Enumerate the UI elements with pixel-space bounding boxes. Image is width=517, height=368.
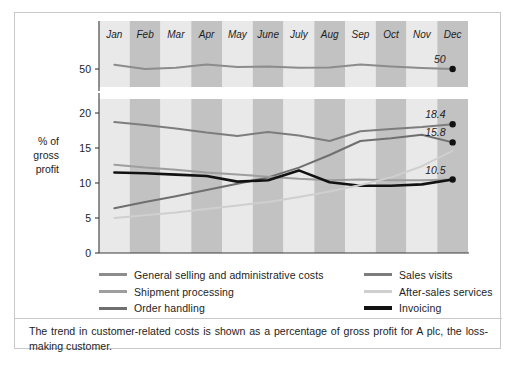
month-label: July (289, 29, 309, 40)
y-axis-title-line: profit (36, 163, 59, 175)
tick-labels: 5005101520 (79, 63, 99, 259)
month-label: Apr (198, 29, 215, 40)
legend-item-label: Order handling (134, 302, 205, 314)
legend-swatch-icon (364, 306, 392, 310)
caption-divider (15, 318, 502, 319)
series-end-value-label: 10.5 (425, 164, 446, 176)
y-tick-label: 50 (79, 63, 91, 75)
legend-item: Sales visits (364, 267, 494, 283)
legend-item-label: General selling and administrative costs (134, 269, 324, 281)
y-tick-label: 5 (85, 212, 91, 224)
y-axis-title-line: gross (33, 149, 59, 161)
month-label: Feb (137, 29, 155, 40)
chart-legend: General selling and administrative costs… (15, 267, 502, 317)
legend-item-label: After-sales services (399, 286, 493, 298)
legend-column-right: Sales visits After-sales services Invoic… (364, 267, 494, 317)
y-tick-label: 15 (79, 142, 91, 154)
line-chart-svg: JanFebMarAprMayJuneJulyAugSepOctNovDec 5… (15, 13, 502, 265)
legend-item-label: Shipment processing (134, 286, 234, 298)
month-label: Jan (105, 29, 123, 40)
chart-plot-area: JanFebMarAprMayJuneJulyAugSepOctNovDec 5… (15, 13, 502, 265)
legend-item: After-sales services (364, 284, 494, 300)
figure-container: JanFebMarAprMayJuneJulyAugSepOctNovDec 5… (14, 12, 501, 349)
series-end-value-label: 18.4 (425, 108, 446, 120)
legend-item: Order handling (99, 300, 364, 316)
month-label: Dec (444, 29, 462, 40)
month-label: Nov (413, 29, 432, 40)
legend-item-label: Invoicing (399, 302, 441, 314)
legend-column-left: General selling and administrative costs… (99, 267, 364, 317)
month-label: Oct (383, 29, 400, 40)
series-end-value-label: 15.8 (425, 126, 446, 138)
legend-swatch-icon (364, 290, 392, 293)
series-end-value-label: 50 (434, 53, 446, 65)
month-label: Aug (320, 29, 339, 40)
y-axis-title-line: % of (38, 135, 59, 147)
y-tick-label: 20 (79, 107, 91, 119)
y-axis-title: % ofgrossprofit (33, 135, 59, 175)
legend-item: Shipment processing (99, 284, 364, 300)
y-tick-label: 0 (85, 247, 91, 259)
legend-swatch-icon (99, 307, 127, 310)
y-tick-label: 10 (79, 177, 91, 189)
legend-item-label: Sales visits (399, 269, 453, 281)
month-label: Sep (351, 29, 369, 40)
month-label: Mar (167, 29, 185, 40)
month-label: June (256, 29, 279, 40)
month-bands (99, 21, 468, 253)
figure-caption: The trend in customer-related costs is s… (29, 324, 488, 354)
legend-swatch-icon (99, 290, 127, 293)
legend-swatch-icon (99, 273, 127, 276)
month-label: May (228, 29, 248, 40)
legend-item: Invoicing (364, 300, 494, 316)
legend-swatch-icon (364, 273, 392, 276)
legend-item: General selling and administrative costs (99, 267, 364, 283)
